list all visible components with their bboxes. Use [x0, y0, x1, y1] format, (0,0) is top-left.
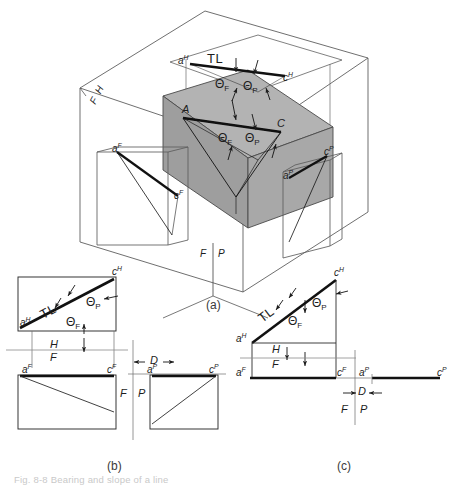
label-theta-p-pictorial-top: ΘP [243, 80, 258, 95]
label-point-a-solid: A [182, 104, 189, 115]
label-theta-f-pictorial-top: ΘF [215, 78, 229, 93]
label-b-profile-a: aP [147, 364, 157, 375]
label-point-c-solid: C [277, 118, 285, 129]
label-theta-p-solid: ΘP [245, 132, 260, 147]
figure-caption-note: Fig. 8-8 Bearing and slope of a line [14, 474, 434, 485]
label-c-top-pictorial: cH [283, 72, 293, 83]
label-tl-pictorial: TL [207, 52, 223, 65]
label-c-front-pictorial: cF [174, 190, 183, 201]
label-c-fold-f: F [272, 359, 279, 370]
label-b-top-c: cH [112, 266, 122, 277]
caption-c: (c) [337, 460, 351, 472]
label-theta-f-solid: ΘF [218, 132, 232, 147]
label-c-fold-f2: F [341, 404, 348, 415]
label-c-dim-d: D [358, 386, 366, 397]
caption-b: (b) [107, 460, 122, 472]
label-c-theta-p: ΘP [312, 297, 327, 312]
label-c-profile-a: aP [359, 367, 369, 378]
label-b-fold-h: H [50, 339, 58, 350]
label-c-theta-f: ΘF [288, 315, 302, 330]
label-c-fold-p: P [360, 404, 367, 415]
label-c-top-a: aH [236, 333, 246, 344]
label-c-front-c: cF [337, 367, 346, 378]
label-c-top-c: cH [334, 267, 344, 278]
figure-linework [0, 0, 452, 486]
label-b-theta-p: ΘP [86, 296, 101, 311]
label-c-profile-c: cP [437, 367, 447, 378]
label-b-profile-c: cP [209, 364, 219, 375]
label-c-fold-h: H [272, 344, 280, 355]
view-b-linework [6, 277, 226, 440]
label-b-theta-f: ΘF [66, 316, 80, 331]
label-c-profile-pictorial: cP [324, 146, 334, 157]
label-b-fold-p: P [138, 388, 145, 399]
view-c-linework [240, 280, 440, 425]
caption-a: (a) [206, 299, 221, 311]
label-b-fold-f2: F [120, 388, 127, 399]
label-a-profile-pictorial: aP [283, 170, 293, 181]
descriptive-geometry-figure: aH TL ΘF ΘP cH A C ΘF ΘP H F aF cF aP cP… [0, 0, 452, 486]
label-a-top-pictorial: aH [178, 55, 188, 66]
label-fold-f2-pictorial: F [200, 249, 206, 259]
label-b-front-a: aF [22, 364, 32, 375]
label-fold-p-pictorial: P [218, 249, 225, 259]
label-c-front-a: aF [236, 367, 246, 378]
label-b-front-c: cF [107, 364, 116, 375]
label-b-fold-f: F [50, 352, 57, 363]
label-a-front-pictorial: aF [112, 143, 122, 154]
label-b-top-a: aH [20, 317, 30, 328]
